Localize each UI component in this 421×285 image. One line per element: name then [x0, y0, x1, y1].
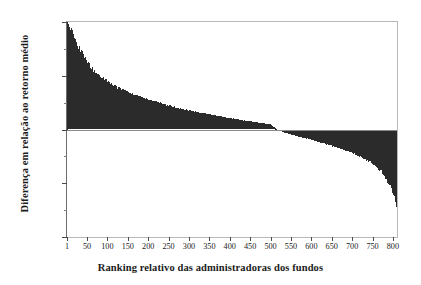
x-tick-label: 750 — [366, 242, 378, 251]
y-tick-minor — [64, 210, 67, 211]
x-tick-label: 250 — [162, 242, 174, 251]
x-tick-label: 550 — [285, 242, 297, 251]
x-tick — [87, 237, 88, 241]
x-tick-label: 500 — [264, 242, 276, 251]
x-tick — [311, 237, 312, 241]
x-tick-label: 350 — [203, 242, 215, 251]
x-tick — [67, 237, 68, 241]
zero-reference-line — [67, 130, 397, 131]
x-tick-label: 700 — [346, 242, 358, 251]
x-tick-label: 650 — [326, 242, 338, 251]
x-tick-label: 400 — [224, 242, 236, 251]
x-tick-label: 800 — [387, 242, 399, 251]
x-tick-label: 450 — [244, 242, 256, 251]
x-tick-label: 100 — [101, 242, 113, 251]
y-tick-major — [62, 183, 67, 184]
x-tick — [107, 237, 108, 241]
x-tick — [393, 237, 394, 241]
x-tick-label: 150 — [122, 242, 134, 251]
x-tick — [189, 237, 190, 241]
x-tick — [209, 237, 210, 241]
x-tick — [148, 237, 149, 241]
chart-figure: Diferença em relação ao retorno médio 20… — [0, 0, 421, 285]
x-tick — [169, 237, 170, 241]
x-tick — [271, 237, 272, 241]
x-tick-label: 50 — [83, 242, 91, 251]
y-tick-major — [62, 22, 67, 23]
x-tick — [230, 237, 231, 241]
y-axis-title: Diferença em relação ao retorno médio — [19, 14, 30, 234]
x-tick — [250, 237, 251, 241]
x-tick-label: 600 — [305, 242, 317, 251]
x-tick — [291, 237, 292, 241]
y-tick-minor — [64, 103, 67, 104]
plot-area: 20.010.00.0-10.0-20.01501001502002503003… — [66, 21, 398, 238]
x-tick — [332, 237, 333, 241]
x-axis-title: Ranking relativo das administradoras dos… — [0, 262, 421, 273]
x-tick — [128, 237, 129, 241]
x-tick-label: 1 — [65, 242, 69, 251]
x-tick-label: 200 — [142, 242, 154, 251]
y-tick-minor — [64, 156, 67, 157]
x-tick — [352, 237, 353, 241]
x-tick — [373, 237, 374, 241]
y-tick-minor — [64, 49, 67, 50]
y-tick-major — [62, 76, 67, 77]
x-tick-label: 300 — [183, 242, 195, 251]
